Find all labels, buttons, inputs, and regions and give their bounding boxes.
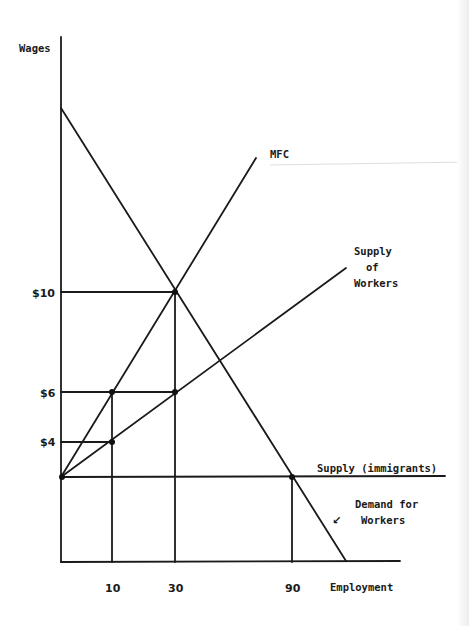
demand-curve <box>61 108 346 561</box>
point-10-4 <box>109 439 115 445</box>
mfc-label: MFC <box>270 148 289 160</box>
y-tick-4: $4 <box>40 436 56 449</box>
supply-label-line1: Supply <box>354 245 393 257</box>
point-30-6 <box>172 389 178 395</box>
x-tick-10: 10 <box>105 582 121 595</box>
page-edge-shadow <box>457 0 469 626</box>
point-origin-supply <box>59 474 65 480</box>
supply-of-workers-curve <box>61 268 346 477</box>
labor-market-chart: Wages Employment MFC Supply of Workers S… <box>0 0 469 626</box>
point-30-10 <box>172 289 178 295</box>
supply-immigrants-label: Supply (immigrants) <box>317 462 437 474</box>
supply-label-line2: of <box>366 261 379 273</box>
y-tick-10: $10 <box>32 287 55 300</box>
x-tick-90: 90 <box>285 582 301 595</box>
y-axis-label: Wages <box>19 42 51 54</box>
point-10-6 <box>109 389 115 395</box>
supply-immigrants-line <box>61 476 445 477</box>
arrow-icon: ↙ <box>332 514 341 527</box>
point-90-2 <box>289 474 295 480</box>
mfc-curve <box>61 158 256 477</box>
chart-canvas: Wages Employment MFC Supply of Workers S… <box>0 0 469 626</box>
supply-label-line3: Workers <box>354 277 398 289</box>
demand-label-line1: Demand for <box>355 498 418 510</box>
demand-label-line2: Workers <box>361 514 405 526</box>
x-tick-30: 30 <box>168 582 184 595</box>
y-tick-6: $6 <box>40 387 56 400</box>
x-axis-label: Employment <box>330 581 393 593</box>
